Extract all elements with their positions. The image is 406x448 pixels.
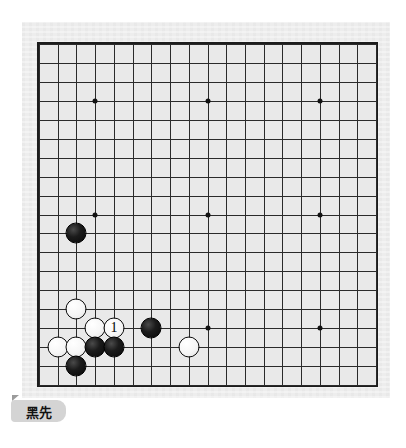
grid-line-vertical [339,44,340,385]
grid-line-vertical [357,44,358,385]
grid-line-horizontal [39,233,376,234]
stone-black[interactable] [141,318,162,339]
star-point [317,326,322,331]
grid-line-vertical [226,44,227,385]
star-point [93,98,98,103]
grid-line-vertical [245,44,246,385]
caption-label: 黑先 [26,402,52,421]
stone-black[interactable] [66,356,87,377]
go-board[interactable]: 1 [37,42,378,387]
grid-line-vertical [376,44,377,385]
grid-line-vertical [264,44,265,385]
caption-chip: 黑先 [11,400,66,422]
page-root: 1 黑先 [0,0,406,448]
grid-line-horizontal [39,271,376,272]
star-point [317,212,322,217]
stone-move-number: 1 [110,321,117,335]
star-point [205,326,210,331]
grid-line-vertical [282,44,283,385]
grid-line-horizontal [39,385,376,386]
grid-line-horizontal [39,290,376,291]
grid-line-horizontal [39,309,376,310]
stone-black[interactable] [66,223,87,244]
star-point [93,212,98,217]
star-point [205,98,210,103]
star-point [205,212,210,217]
grid-line-horizontal [39,366,376,367]
star-point [317,98,322,103]
stone-black[interactable] [103,337,124,358]
grid-line-vertical [301,44,302,385]
stone-white-move-1[interactable]: 1 [103,318,124,339]
grid-line-horizontal [39,252,376,253]
stone-white[interactable] [178,337,199,358]
stone-white[interactable] [66,299,87,320]
